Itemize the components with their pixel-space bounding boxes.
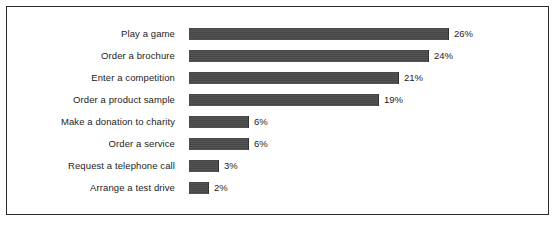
bar-fill [189,28,449,40]
bar-category-label: Order a brochure [7,45,182,67]
bar-value-label: 19% [379,94,403,106]
bar-row: Order a service 6% [7,133,548,155]
bar-category-label: Play a game [7,23,182,45]
bar-value-label: 3% [219,160,238,172]
bar-track: 6% [189,138,548,150]
bar-row: Order a brochure 24% [7,45,548,67]
bar-category-label: Arrange a test drive [7,177,182,199]
bar-fill [189,94,379,106]
bar-row: Make a donation to charity 6% [7,111,548,133]
bar-category-label: Order a service [7,133,182,155]
bar-track: 6% [189,116,548,128]
bar-value-label: 2% [209,182,228,194]
bar-row: Enter a competition 21% [7,67,548,89]
bar-category-label: Enter a competition [7,67,182,89]
bar-chart-plot-area: Play a game 26% Order a brochure 24% Ent… [7,23,548,199]
bar-fill [189,160,219,172]
bar-track: 21% [189,72,548,84]
bar-fill [189,72,399,84]
bar-track: 26% [189,28,548,40]
bar-fill [189,182,209,194]
bar-row: Play a game 26% [7,23,548,45]
bar-category-label: Request a telephone call [7,155,182,177]
bar-track: 24% [189,50,548,62]
bar-value-label: 6% [249,138,268,150]
bar-value-label: 6% [249,116,268,128]
bar-track: 19% [189,94,548,106]
bar-value-label: 21% [399,72,423,84]
bar-fill [189,138,249,150]
bar-category-label: Make a donation to charity [7,111,182,133]
bar-fill [189,116,249,128]
bar-value-label: 26% [449,28,473,40]
bar-value-label: 24% [429,50,453,62]
bar-row: Order a product sample 19% [7,89,548,111]
bar-track: 3% [189,160,548,172]
bar-row: Arrange a test drive 2% [7,177,548,199]
chart-frame: Play a game 26% Order a brochure 24% Ent… [6,6,549,215]
bar-fill [189,50,429,62]
bar-category-label: Order a product sample [7,89,182,111]
bar-track: 2% [189,182,548,194]
bar-row: Request a telephone call 3% [7,155,548,177]
